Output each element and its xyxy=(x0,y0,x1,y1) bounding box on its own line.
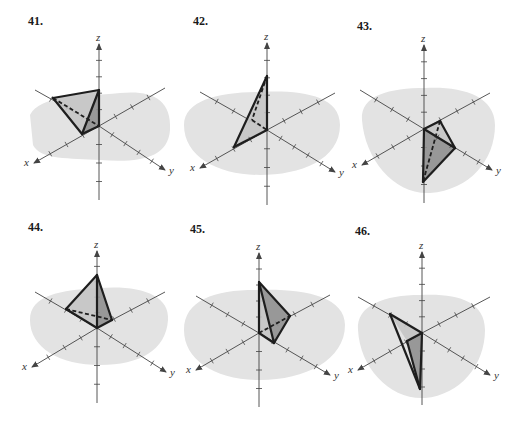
exercise-number-42: 42. xyxy=(193,14,208,29)
tetrahedron-figure-46: zxy xyxy=(347,239,499,405)
z-axis-label: z xyxy=(95,31,101,43)
exercise-number-44: 44. xyxy=(28,220,43,235)
tetrahedron-figure-45: zxy xyxy=(184,240,345,407)
z-axis-label: z xyxy=(93,238,99,250)
z-axis-label: z xyxy=(263,30,269,42)
y-axis-label: y xyxy=(169,366,175,378)
y-pos-tick xyxy=(150,159,153,164)
exercise-number-41: 41. xyxy=(28,14,43,29)
tetrahedron-figure-42: zxy xyxy=(184,30,344,205)
z-axis-label: z xyxy=(418,239,424,251)
x-axis-label: x xyxy=(185,363,191,375)
x-axis-label: x xyxy=(189,161,195,173)
z-axis-label: z xyxy=(420,32,426,44)
tetrahedron-figure-44: zxy xyxy=(21,238,175,403)
x-pos-tick xyxy=(47,355,50,360)
y-axis-label: y xyxy=(495,164,501,176)
x-axis-label: x xyxy=(21,360,27,372)
y-axis-label: y xyxy=(493,369,499,381)
exercise-number-45: 45. xyxy=(190,222,205,237)
y-axis-label: y xyxy=(168,164,174,176)
y-axis-label: y xyxy=(338,166,344,178)
y-pos-tick xyxy=(320,161,323,166)
exercise-number-43: 43. xyxy=(357,19,372,34)
x-axis-label: x xyxy=(347,363,353,375)
tetrahedron-figure-43: zxy xyxy=(351,32,501,203)
exercise-figure-grid: zxyzxyzxyzxyzxyzxy41.42.43.44.45.46. xyxy=(0,0,517,430)
exercise-number-46: 46. xyxy=(355,224,370,239)
x-axis-label: x xyxy=(351,158,357,170)
y-axis-label: y xyxy=(333,369,339,381)
x-axis-label: x xyxy=(23,156,29,168)
tetrahedron-figure-41: zxy xyxy=(23,31,174,200)
figures-canvas: zxyzxyzxyzxyzxyzxy xyxy=(0,0,517,430)
visible-edge xyxy=(423,129,424,182)
z-axis-label: z xyxy=(255,240,261,252)
y-pos-tick xyxy=(151,361,154,366)
